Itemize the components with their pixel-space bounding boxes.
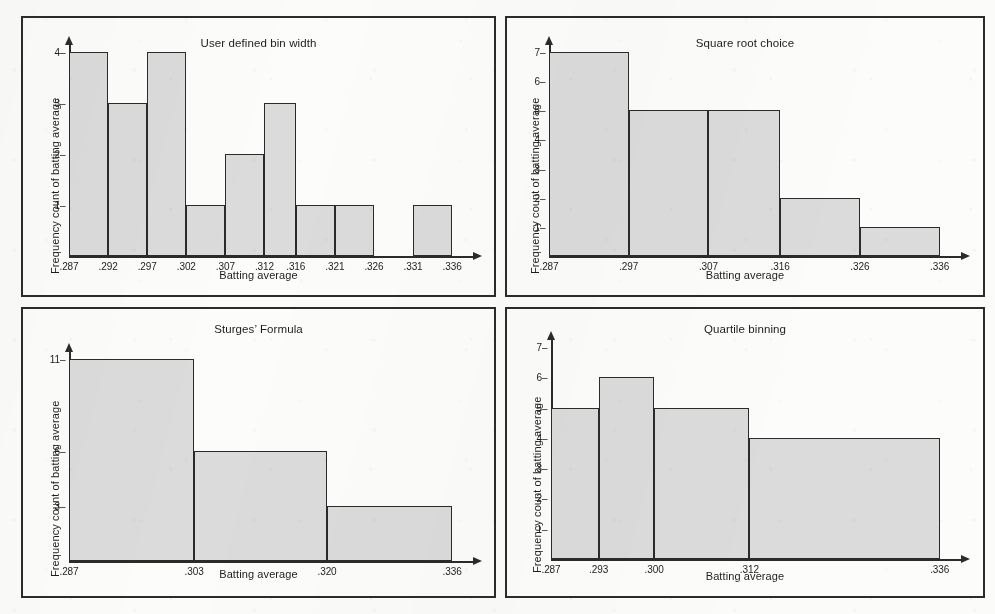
y-axis-tick-label: 4– bbox=[537, 432, 547, 443]
x-axis-tick-label: .302 bbox=[177, 261, 196, 272]
x-axis-tick-label: .336 bbox=[443, 261, 462, 272]
x-axis-tick-label: .326 bbox=[364, 261, 383, 272]
x-axis-tick-label: .316 bbox=[771, 261, 790, 272]
y-axis-arrow-icon bbox=[65, 36, 73, 45]
y-axis-tick-label: 6– bbox=[537, 372, 547, 383]
x-axis-tick-label: .336 bbox=[930, 564, 949, 575]
x-axis-tick-label: .312 bbox=[740, 564, 759, 575]
y-axis-tick-label: 3– bbox=[55, 98, 65, 109]
x-axis-line bbox=[69, 561, 475, 563]
histogram-bar bbox=[264, 103, 295, 256]
histogram-bar bbox=[599, 377, 655, 559]
x-axis-tick-label: .316 bbox=[286, 261, 305, 272]
plot-area: 1–2–3–4–5–6–7–.287.297.307.316.326.336 bbox=[549, 42, 969, 282]
x-axis-tick-label: .326 bbox=[850, 261, 869, 272]
x-axis-tick-label: .293 bbox=[589, 564, 608, 575]
histogram-bar bbox=[225, 154, 264, 256]
x-axis-tick-label: .287 bbox=[59, 261, 78, 272]
y-axis-tick-label: 3– bbox=[55, 500, 65, 511]
x-axis-line bbox=[551, 559, 963, 561]
x-axis-line bbox=[69, 256, 475, 258]
y-axis-arrow-icon bbox=[547, 331, 555, 340]
y-axis-tick-label: 6– bbox=[535, 76, 545, 87]
y-axis-tick-label: 1– bbox=[55, 200, 65, 211]
panel-quartile-binning: Quartile binning Frequency count of batt… bbox=[505, 307, 985, 598]
y-axis-tick-label: 3– bbox=[537, 463, 547, 474]
y-axis-tick-label: 2– bbox=[537, 493, 547, 504]
plot-area: 1–2–3–4–.287.292.297.302.307.312.316.321… bbox=[69, 42, 481, 282]
x-axis-tick-label: .292 bbox=[99, 261, 118, 272]
x-axis-arrow-icon bbox=[473, 252, 482, 260]
plot-area: 3–6–11–.287.303.320.336 bbox=[69, 349, 481, 587]
x-axis-tick-label: .321 bbox=[325, 261, 344, 272]
y-axis-arrow-icon bbox=[65, 343, 73, 352]
histogram-panel-grid: User defined bin width Frequency count o… bbox=[0, 0, 995, 614]
x-axis-tick-label: .307 bbox=[216, 261, 235, 272]
histogram-bar bbox=[108, 103, 147, 256]
histogram-bar bbox=[335, 205, 374, 256]
x-axis-tick-label: .287 bbox=[539, 261, 558, 272]
histogram-bar bbox=[147, 52, 186, 256]
y-axis-arrow-icon bbox=[545, 36, 553, 45]
histogram-bar bbox=[654, 408, 749, 559]
x-axis-tick-label: .336 bbox=[930, 261, 949, 272]
histogram-bar bbox=[296, 205, 335, 256]
x-axis-tick-label: .307 bbox=[699, 261, 718, 272]
histogram-bar bbox=[708, 110, 780, 256]
x-axis-arrow-icon bbox=[961, 252, 970, 260]
histogram-bar bbox=[749, 438, 939, 559]
x-axis-tick-label: .312 bbox=[255, 261, 274, 272]
histogram-bar bbox=[194, 451, 327, 561]
x-axis-tick-label: .320 bbox=[317, 566, 336, 577]
histogram-bar bbox=[780, 198, 860, 256]
y-axis-tick-label: 2– bbox=[535, 192, 545, 203]
x-axis-tick-label: .297 bbox=[619, 261, 638, 272]
x-axis-arrow-icon bbox=[473, 557, 482, 565]
panel-sturges-formula: Sturges’ Formula Frequency count of batt… bbox=[21, 307, 496, 598]
x-axis-tick-label: .331 bbox=[404, 261, 423, 272]
plot-area: 1–2–3–4–5–6–7–.287.293.300.312.336 bbox=[551, 337, 969, 585]
y-axis-tick-label: 6– bbox=[55, 445, 65, 456]
y-axis-tick-label: 7– bbox=[535, 47, 545, 58]
panel-title: Quartile binning bbox=[507, 323, 983, 335]
histogram-bar bbox=[69, 359, 194, 561]
histogram-bar bbox=[549, 52, 629, 256]
histogram-bar bbox=[413, 205, 452, 256]
y-axis-tick-label: 1– bbox=[537, 523, 547, 534]
y-axis-label: Frequency count of batting average bbox=[49, 359, 61, 577]
x-axis-tick-label: .336 bbox=[443, 566, 462, 577]
y-axis-tick-label: 5– bbox=[535, 105, 545, 116]
y-axis-tick-label: 4– bbox=[535, 134, 545, 145]
panel-user-defined-bin-width: User defined bin width Frequency count o… bbox=[21, 16, 496, 297]
y-axis-tick-label: 1– bbox=[535, 221, 545, 232]
x-axis-arrow-icon bbox=[961, 555, 970, 563]
panel-title: Sturges’ Formula bbox=[23, 323, 494, 335]
y-axis-tick-label: 5– bbox=[537, 402, 547, 413]
histogram-bar bbox=[551, 408, 599, 559]
histogram-bar bbox=[327, 506, 452, 561]
panel-square-root-choice: Square root choice Frequency count of ba… bbox=[505, 16, 985, 297]
y-axis-tick-label: 2– bbox=[55, 149, 65, 160]
y-axis-tick-label: 3– bbox=[535, 163, 545, 174]
y-axis-tick-label: 4– bbox=[55, 47, 65, 58]
x-axis-tick-label: .287 bbox=[59, 566, 78, 577]
histogram-bar bbox=[69, 52, 108, 256]
y-axis-label: Frequency count of batting average bbox=[49, 54, 61, 274]
histogram-bar bbox=[629, 110, 709, 256]
x-axis-tick-label: .297 bbox=[138, 261, 157, 272]
x-axis-tick-label: .300 bbox=[645, 564, 664, 575]
x-axis-line bbox=[549, 256, 963, 258]
histogram-bar bbox=[186, 205, 225, 256]
x-axis-tick-label: .287 bbox=[541, 564, 560, 575]
histogram-bar bbox=[860, 227, 940, 256]
y-axis-tick-label: 11– bbox=[50, 354, 65, 365]
y-axis-tick-label: 7– bbox=[537, 342, 547, 353]
x-axis-tick-label: .303 bbox=[185, 566, 204, 577]
